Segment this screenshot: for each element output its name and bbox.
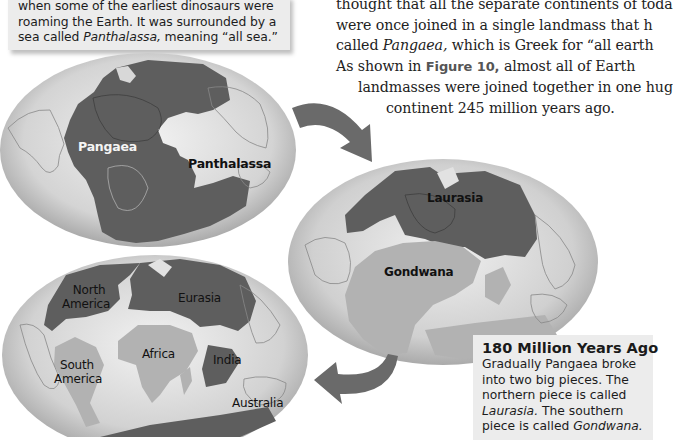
label-north-america: North America	[62, 283, 110, 311]
figure-reference: Figure 10,	[426, 59, 500, 74]
label-line: South	[54, 358, 102, 372]
label-line: America	[62, 297, 110, 311]
caption-box: when some of the earliest dinosaurs were…	[8, 0, 290, 50]
info-box-180-million-years: 180 Million Years Ago Gradually Pangaea …	[473, 335, 653, 440]
label-line: America	[54, 372, 102, 386]
body-text: called	[336, 37, 383, 53]
label-australia: Australia	[232, 396, 283, 410]
info-line: Laurasia. The southern	[482, 404, 653, 420]
info-line: into two big pieces. The	[482, 373, 653, 389]
label-pangaea: Pangaea	[78, 140, 137, 154]
body-text: As shown in	[336, 58, 426, 74]
body-line: thought that all the separate continents…	[336, 0, 656, 15]
caption-text: meaning “all sea.”	[161, 29, 278, 44]
label-laurasia: Laurasia	[427, 191, 483, 205]
info-text: The southern	[538, 404, 623, 418]
gondwana-term: Gondwana.	[573, 419, 642, 433]
body-line: called Pangaea, which is Greek for “all …	[336, 35, 656, 56]
caption-line: when some of the earliest dinosaurs were	[18, 0, 290, 14]
label-africa: Africa	[142, 347, 175, 361]
pangaea-term: Pangaea,	[383, 37, 448, 53]
label-eurasia: Eurasia	[178, 291, 221, 305]
label-south-america: South America	[54, 358, 102, 386]
info-line: northern piece is called	[482, 388, 653, 404]
label-line: North	[62, 283, 110, 297]
caption-line: sea called Panthalassa, meaning “all sea…	[18, 29, 290, 45]
label-india: India	[213, 353, 241, 367]
info-line: Gradually Pangaea broke	[482, 357, 653, 373]
caption-line: roaming the Earth. It was surrounded by …	[18, 14, 290, 30]
label-panthalassa: Panthalassa	[188, 157, 271, 171]
body-line: were once joined in a single landmass th…	[336, 15, 656, 36]
info-line: piece is called Gondwana.	[482, 419, 653, 435]
laurasia-term: Laurasia.	[482, 404, 538, 418]
caption-text: sea called	[18, 29, 83, 44]
pangaea-globe-map	[0, 48, 298, 248]
laurasia-gondwana-globe-map	[285, 155, 600, 365]
body-text: almost all of Earth	[499, 58, 635, 74]
arrow-down-left-icon	[310, 352, 400, 412]
body-line: landmasses were joined together in one h…	[336, 77, 656, 98]
panthalassa-term: Panthalassa,	[83, 29, 161, 44]
info-text: piece is called	[482, 419, 573, 433]
label-gondwana: Gondwana	[384, 265, 453, 279]
body-text: which is Greek for “all earth	[447, 37, 653, 53]
info-title: 180 Million Years Ago	[482, 340, 653, 357]
body-line: As shown in Figure 10, almost all of Ear…	[336, 56, 656, 78]
